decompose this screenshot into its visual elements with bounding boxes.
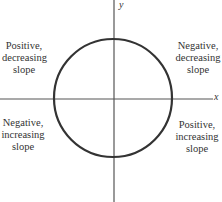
quadrant-label-line: Positive, [174, 119, 220, 131]
quadrant-label-line: slope [2, 64, 46, 76]
quadrant-label-top-right: Negative, decreasing slope [174, 40, 222, 76]
quadrant-label-line: decreasing [174, 52, 222, 64]
x-axis-label: x [214, 91, 218, 102]
quadrant-label-line: increasing [0, 129, 46, 141]
quadrant-label-line: slope [174, 64, 222, 76]
quadrant-label-line: Negative, [0, 117, 46, 129]
quadrant-label-bottom-right: Positive, increasing slope [174, 119, 220, 155]
quadrant-label-top-left: Positive, decreasing slope [2, 40, 46, 76]
quadrant-label-line: slope [174, 143, 220, 155]
quadrant-label-line: decreasing [2, 52, 46, 64]
y-axis-label: y [119, 0, 123, 10]
quadrant-label-line: increasing [174, 131, 220, 143]
circle-slope-diagram [0, 0, 222, 202]
quadrant-label-line: Negative, [174, 40, 222, 52]
circle-curve [54, 39, 172, 157]
quadrant-label-line: Positive, [2, 40, 46, 52]
quadrant-label-line: slope [0, 141, 46, 153]
quadrant-label-bottom-left: Negative, increasing slope [0, 117, 46, 153]
